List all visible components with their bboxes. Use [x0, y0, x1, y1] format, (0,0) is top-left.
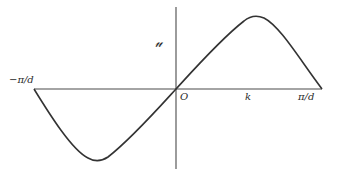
x-left-end-label: −π/d — [9, 75, 34, 85]
dispersion-diagram — [0, 0, 345, 175]
curve — [34, 16, 322, 160]
origin-label: O — [180, 92, 188, 102]
k-label: k — [245, 92, 251, 102]
x-right-end-label: π/d — [298, 92, 314, 102]
y-axis-label: 𝓊 — [155, 36, 162, 49]
